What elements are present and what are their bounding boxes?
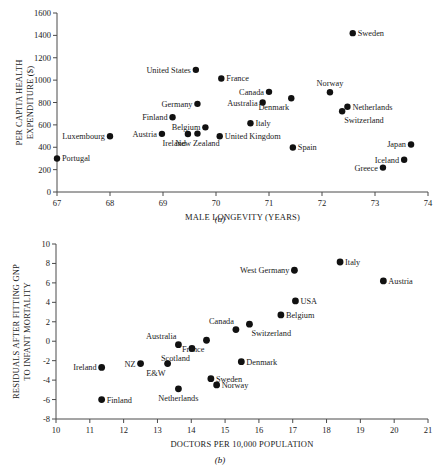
y-axis-title-line1: RESIDUALS AFTER FITTING GNP: [11, 264, 21, 399]
data-point-label: United Kingdom: [225, 132, 282, 141]
x-tick-label: 16: [255, 425, 264, 435]
data-point: [137, 360, 144, 367]
x-tick-label: 15: [221, 425, 230, 435]
y-tick-label: 200: [38, 165, 51, 175]
y-tick-label: 2: [46, 317, 50, 327]
data-point: [107, 133, 113, 139]
data-point-label: Italy: [255, 119, 271, 128]
data-point: [202, 124, 208, 130]
data-point: [344, 104, 350, 110]
chart-a-canvas: 0200400600800100012001400160067686970717…: [0, 0, 440, 232]
data-point-label: Portugal: [62, 154, 91, 163]
data-point: [247, 120, 253, 126]
y-tick-label: -4: [43, 375, 51, 385]
y-tick-label: 1600: [34, 8, 51, 18]
data-point-label: Japan: [387, 140, 407, 149]
data-point-label: France: [182, 345, 205, 354]
data-point-label: Belgium: [172, 123, 201, 132]
data-point: [233, 326, 240, 333]
data-point-label: Canada: [239, 88, 264, 97]
data-point: [288, 95, 294, 101]
data-point-label: Iceland: [375, 156, 400, 165]
data-point: [350, 30, 356, 36]
data-point-label: E&W: [146, 369, 166, 378]
y-axis-title-line2: TO INFANT MORTALITY: [22, 282, 32, 380]
data-point: [380, 278, 387, 285]
data-point-label: West Germany: [240, 266, 290, 275]
x-tick-label: 70: [212, 198, 221, 208]
data-point-label: Greece: [354, 164, 378, 173]
data-point: [380, 164, 386, 170]
x-tick-label: 72: [318, 198, 327, 208]
x-axis-title: DOCTORS PER 10,000 POPULATION: [170, 439, 313, 449]
scatter-panel-male-longevity: 0200400600800100012001400160067686970717…: [0, 0, 440, 232]
data-point-label: New Zealand: [175, 139, 220, 148]
data-point: [292, 297, 299, 304]
x-tick-label: 18: [322, 425, 331, 435]
data-point-label: Germany: [162, 100, 194, 109]
x-tick-label: 10: [52, 425, 61, 435]
y-tick-label: 8: [46, 258, 50, 268]
data-point: [337, 259, 344, 266]
data-point: [175, 341, 182, 348]
y-tick-label: 0: [46, 336, 50, 346]
data-point-label: USA: [300, 297, 317, 306]
panel-a-caption: (a): [0, 214, 440, 224]
y-tick-label: 1200: [34, 53, 51, 63]
x-tick-label: 19: [356, 425, 365, 435]
data-point-label: Switzerland: [344, 116, 384, 125]
x-tick-label: 20: [390, 425, 399, 435]
x-tick-label: 12: [119, 425, 128, 435]
x-tick-label: 17: [288, 425, 297, 435]
data-point: [277, 312, 284, 319]
data-point-label: Switzerland: [251, 329, 291, 338]
data-point-label: Netherlands: [352, 103, 392, 112]
data-point-label: Luxembourg: [62, 132, 105, 141]
data-point: [213, 382, 220, 389]
data-point-label: Austria: [133, 130, 158, 139]
data-point-label: Norway: [317, 79, 345, 88]
data-point: [207, 375, 214, 382]
y-tick-label: 6: [46, 278, 50, 288]
chart-b-canvas: -8-6-4-20246810101112131415161718192021D…: [0, 234, 440, 474]
data-point: [218, 75, 224, 81]
data-point-label: Ireland: [73, 363, 97, 372]
x-tick-label: 73: [371, 198, 380, 208]
data-point: [266, 89, 272, 95]
data-point: [175, 385, 182, 392]
data-point-label: Netherlands: [158, 394, 198, 403]
y-tick-label: 600: [38, 120, 51, 130]
y-tick-label: 1400: [34, 30, 51, 40]
x-tick-label: 74: [424, 198, 433, 208]
data-point: [159, 131, 165, 137]
data-point: [98, 396, 105, 403]
data-point: [246, 321, 253, 328]
x-tick-label: 68: [106, 198, 115, 208]
data-point: [169, 114, 175, 120]
data-point: [291, 267, 298, 274]
data-point: [238, 358, 245, 365]
y-tick-label: 400: [38, 142, 51, 152]
data-point: [194, 101, 200, 107]
data-point-label: Austria: [388, 277, 413, 286]
data-point-label: Italy: [345, 258, 361, 267]
panel-b-caption: (b): [0, 455, 440, 465]
y-axis-title-line2: EXPENDITURE ($): [25, 66, 35, 140]
y-tick-label: 0: [47, 187, 51, 197]
y-tick-label: -6: [43, 395, 50, 405]
x-tick-label: 71: [265, 198, 274, 208]
y-tick-label: 800: [38, 98, 51, 108]
data-point: [339, 108, 345, 114]
data-point: [193, 67, 199, 73]
data-point-label: Scotland: [161, 354, 191, 363]
data-point-label: France: [226, 74, 249, 83]
x-tick-label: 13: [153, 425, 162, 435]
data-point-label: Denmark: [246, 358, 278, 367]
data-point-label: Belgium: [286, 311, 315, 320]
data-point-label: Finland: [107, 396, 133, 405]
data-point-label: Denmark: [258, 103, 290, 112]
data-point: [217, 133, 223, 139]
data-point: [401, 157, 407, 163]
x-tick-label: 67: [53, 198, 62, 208]
data-point-label: Australia: [146, 332, 177, 341]
